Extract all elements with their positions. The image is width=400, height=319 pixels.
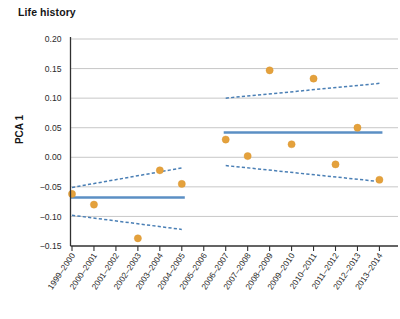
data-point bbox=[332, 161, 339, 168]
data-point bbox=[244, 153, 251, 160]
data-point bbox=[156, 167, 163, 174]
ci-upper-line bbox=[72, 168, 182, 188]
data-point bbox=[354, 124, 361, 131]
data-point bbox=[178, 180, 185, 187]
y-tick-label: −0.10 bbox=[40, 212, 62, 222]
confidence-interval-lines bbox=[72, 83, 379, 229]
y-tick-label: 0.20 bbox=[45, 34, 62, 44]
ci-upper-line bbox=[226, 83, 380, 98]
y-tick-label: 0.00 bbox=[45, 152, 62, 162]
data-point bbox=[376, 176, 383, 183]
axes bbox=[71, 37, 399, 251]
y-tick-labels: 0.200.150.100.050.00−0.05−0.10−0.15 bbox=[40, 34, 62, 251]
y-tick-label: −0.15 bbox=[40, 241, 62, 251]
y-tick-label: 0.05 bbox=[45, 123, 62, 133]
x-tick-labels: 1999–20002000–20012001–20022002–20032003… bbox=[45, 251, 384, 292]
data-points bbox=[68, 67, 383, 242]
chart-figure: Life history PCA 1 0.200.150.100.050.00−… bbox=[0, 0, 400, 319]
ci-lower-line bbox=[72, 215, 182, 229]
y-tick-label: 0.15 bbox=[45, 64, 62, 74]
data-point bbox=[134, 235, 141, 242]
data-point bbox=[90, 201, 97, 208]
data-point bbox=[266, 67, 273, 74]
data-point bbox=[68, 190, 75, 197]
data-point bbox=[310, 75, 317, 82]
data-point bbox=[288, 141, 295, 148]
gridlines bbox=[71, 39, 399, 216]
ci-lower-line bbox=[226, 166, 380, 182]
data-point bbox=[222, 136, 229, 143]
y-tick-label: −0.05 bbox=[40, 182, 62, 192]
y-tick-label: 0.10 bbox=[45, 93, 62, 103]
plot-area: 0.200.150.100.050.00−0.05−0.10−0.15 1999… bbox=[0, 0, 400, 319]
